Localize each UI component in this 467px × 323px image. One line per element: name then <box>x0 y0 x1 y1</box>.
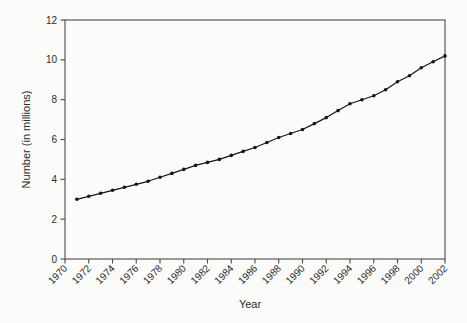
y-tick-label: 12 <box>46 15 58 26</box>
x-tick-label: 1994 <box>331 262 355 286</box>
data-point <box>75 198 79 202</box>
data-point <box>87 195 91 199</box>
data-point <box>396 80 400 84</box>
x-tick-label: 1998 <box>378 262 402 286</box>
data-point <box>313 122 317 126</box>
y-tick-label: 8 <box>51 94 57 105</box>
line-chart: 0246810121970197219741976197819801982198… <box>0 0 467 323</box>
data-point <box>348 102 352 106</box>
data-point <box>277 136 281 140</box>
x-tick-label: 1970 <box>46 262 70 286</box>
x-tick-label: 1988 <box>260 262 284 286</box>
y-axis-title: Number (in millions) <box>20 91 32 189</box>
y-tick-label: 10 <box>46 54 58 65</box>
data-point <box>253 146 257 150</box>
data-point <box>123 186 127 190</box>
x-tick-label: 1978 <box>141 262 165 286</box>
data-point <box>384 88 388 92</box>
x-tick-label: 1972 <box>70 262 94 286</box>
data-point <box>408 74 412 78</box>
x-axis-title: Year <box>239 298 262 310</box>
x-tick-label: 1976 <box>117 262 141 286</box>
line-chart-figure: 0246810121970197219741976197819801982198… <box>0 0 467 323</box>
data-point <box>289 132 293 136</box>
x-tick-label: 1992 <box>307 262 331 286</box>
data-point <box>301 128 305 132</box>
data-point <box>146 180 150 184</box>
data-point <box>360 98 364 102</box>
data-point <box>336 109 340 113</box>
x-tick-label: 1984 <box>212 262 236 286</box>
data-point <box>265 141 269 145</box>
data-point <box>170 172 174 176</box>
data-line <box>77 56 445 199</box>
data-point <box>230 154 234 158</box>
x-tick-label: 2000 <box>402 262 426 286</box>
data-point <box>241 150 245 154</box>
x-tick-label: 2002 <box>426 262 450 286</box>
x-tick-label: 1990 <box>283 262 307 286</box>
data-point <box>372 94 376 98</box>
data-point <box>158 176 162 180</box>
x-tick-label: 1982 <box>188 262 212 286</box>
x-tick-label: 1986 <box>236 262 260 286</box>
chart-plot-area: 0246810121970197219741976197819801982198… <box>46 15 450 287</box>
data-point <box>182 168 186 172</box>
data-point <box>206 161 210 165</box>
data-point <box>99 192 103 196</box>
plot-frame <box>65 20 445 259</box>
x-tick-label: 1996 <box>355 262 379 286</box>
y-tick-label: 2 <box>51 214 57 225</box>
y-tick-label: 0 <box>51 254 57 265</box>
data-point <box>111 189 115 193</box>
data-point <box>135 183 139 187</box>
data-point <box>194 164 198 168</box>
data-point <box>443 54 447 58</box>
y-tick-label: 6 <box>51 134 57 145</box>
x-tick-label: 1980 <box>165 262 189 286</box>
x-tick-label: 1974 <box>93 262 117 286</box>
data-point <box>420 66 424 70</box>
data-point <box>325 116 329 120</box>
data-point <box>218 158 222 162</box>
y-tick-label: 4 <box>51 174 57 185</box>
data-point <box>431 60 435 64</box>
